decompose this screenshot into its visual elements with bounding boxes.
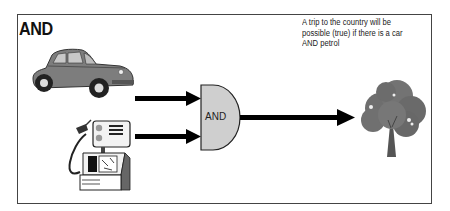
petrol-pump-icon bbox=[69, 120, 130, 190]
diagram-art bbox=[0, 0, 450, 211]
arrow-petrol-to-gate bbox=[135, 129, 201, 144]
car-icon bbox=[33, 49, 134, 98]
arrow-car-to-gate bbox=[135, 91, 201, 106]
arrow-gate-to-output bbox=[240, 109, 355, 126]
tree-icon bbox=[361, 80, 426, 157]
and-gate-label: AND bbox=[205, 111, 226, 122]
